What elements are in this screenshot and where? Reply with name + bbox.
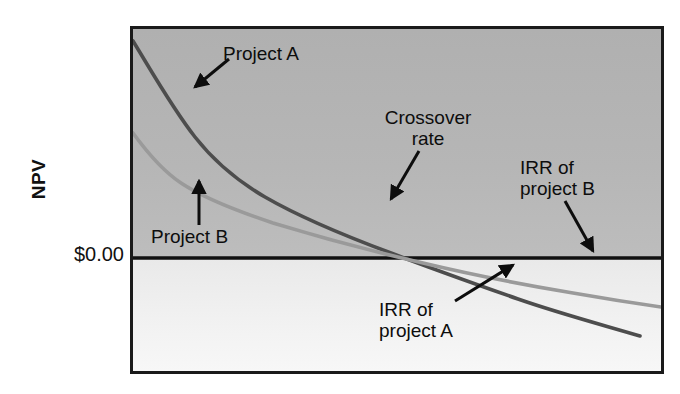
annotation-irr-project-b-line1: IRR of	[520, 157, 595, 178]
annotation-irr-project-a: IRR of project A	[379, 299, 453, 341]
plot-area: Project A Project B Crossover rate IRR o…	[130, 26, 664, 374]
annotation-project-b: Project B	[151, 226, 228, 247]
annotation-project-a-text: Project A	[223, 43, 299, 64]
annotation-crossover-rate-line2: rate	[373, 128, 483, 149]
annotation-project-b-text: Project B	[151, 226, 228, 247]
arrow-to-crossover-rate	[391, 151, 419, 199]
annotation-irr-project-b-line2: project B	[520, 178, 595, 199]
y-axis-zero-tick-label: $0.00	[28, 243, 124, 266]
arrow-to-irr-project-b	[565, 201, 593, 251]
npv-profile-chart: NPV $0.00	[0, 0, 680, 394]
annotation-irr-project-a-line1: IRR of	[379, 299, 453, 320]
annotation-irr-project-b: IRR of project B	[520, 157, 595, 199]
annotation-crossover-rate: Crossover rate	[373, 107, 483, 149]
annotation-project-a: Project A	[223, 43, 299, 64]
annotation-crossover-rate-line1: Crossover	[373, 107, 483, 128]
y-axis-label: NPV	[28, 134, 50, 224]
annotation-irr-project-a-line2: project A	[379, 320, 453, 341]
